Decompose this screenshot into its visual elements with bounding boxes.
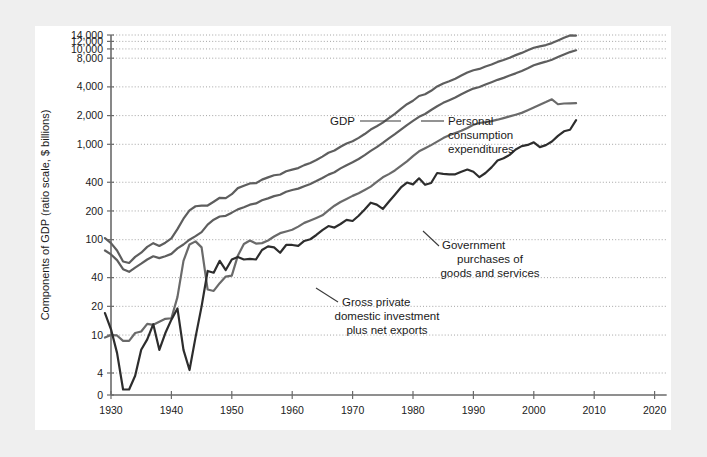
gdp-components-line-chart: 041020401002004001,0002,0004,0008,00010,… — [35, 26, 671, 430]
y-tick-label: 14,000 — [71, 29, 103, 41]
x-tick-label: 2000 — [522, 404, 546, 416]
data-series-group — [105, 35, 576, 389]
y-tick-label: 4,000 — [77, 80, 103, 92]
x-axis-tick-labels: 1930194019501960197019801990200020102020 — [99, 404, 666, 416]
government-annotation-label-line1: Government — [442, 239, 506, 251]
y-tick-label: 10 — [91, 329, 103, 341]
pce-annotation-label-line2: consumption — [448, 129, 513, 141]
y-tick-label: 400 — [85, 176, 103, 188]
pce-annotation-label-line3: expenditures — [448, 143, 514, 155]
series-line-personal-consumption-expenditures — [105, 50, 576, 272]
investment-annotation-label-line3: plus net exports — [346, 324, 427, 336]
gridlines — [113, 35, 667, 373]
x-tick-label: 1950 — [220, 404, 244, 416]
axis-ticks — [107, 35, 655, 399]
y-tick-label: 4 — [97, 367, 103, 379]
y-tick-label: 2,000 — [77, 109, 103, 121]
x-tick-label: 1980 — [401, 404, 425, 416]
government-annotation-label-line3: goods and services — [440, 267, 539, 279]
y-axis-title: Components of GDP (ratio scale, $ billio… — [39, 110, 51, 321]
x-tick-label: 1960 — [281, 404, 305, 416]
investment-leader-line — [316, 288, 338, 302]
x-tick-label: 2010 — [583, 404, 607, 416]
y-tick-label: 40 — [91, 271, 103, 283]
y-tick-label: 200 — [85, 205, 103, 217]
x-tick-label: 1940 — [160, 404, 184, 416]
x-tick-label: 2020 — [643, 404, 667, 416]
y-tick-label: 1,000 — [77, 138, 103, 150]
figure-root: 041020401002004001,0002,0004,0008,00010,… — [0, 0, 707, 457]
chart-panel: 041020401002004001,0002,0004,0008,00010,… — [35, 26, 671, 430]
y-axis-tick-labels: 041020401002004001,0002,0004,0008,00010,… — [71, 29, 103, 401]
gdp-annotation-label: GDP — [330, 115, 355, 127]
y-tick-label: 20 — [91, 300, 103, 312]
government-annotation-label-line2: purchases of — [457, 253, 524, 265]
y-tick-label: 0 — [97, 389, 103, 401]
x-tick-label: 1930 — [99, 404, 123, 416]
investment-annotation-label-line2: domestic investment — [335, 310, 441, 322]
y-tick-label: 100 — [85, 233, 103, 245]
government-leader-line — [423, 231, 439, 246]
x-tick-label: 1970 — [341, 404, 365, 416]
investment-annotation-label-line1: Gross private — [342, 296, 410, 308]
x-tick-label: 1990 — [462, 404, 486, 416]
pce-annotation-label-line1: Personal — [448, 115, 493, 127]
